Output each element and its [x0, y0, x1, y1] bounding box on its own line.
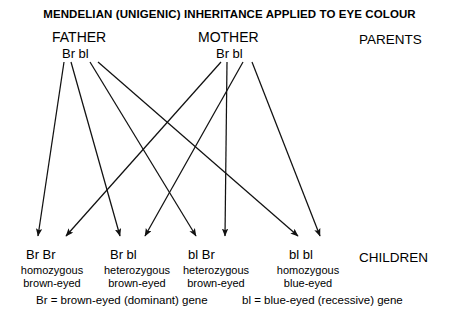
- arrow-father-br-to-child2: [71, 62, 120, 236]
- parents-side-label: PARENTS: [359, 32, 422, 47]
- child-genotype-1: Br Br: [26, 247, 56, 262]
- child-description-3: heterozygous brown-eyed: [170, 264, 262, 289]
- mother-label: MOTHER: [198, 29, 259, 45]
- child-description-1: homozygous brown-eyed: [6, 264, 98, 289]
- arrow-father-bl-to-child3: [90, 62, 196, 236]
- child-description-1-line1: homozygous: [6, 264, 98, 277]
- arrow-mother-bl-to-child2: [145, 62, 243, 236]
- father-genes: Br bl: [62, 46, 89, 61]
- mother-genes: Br bl: [216, 46, 243, 61]
- child-description-3-line1: heterozygous: [170, 264, 262, 277]
- inheritance-diagram: MENDELIAN (UNIGENIC) INHERITANCE APPLIED…: [0, 0, 459, 317]
- child-description-1-line2: brown-eyed: [6, 277, 98, 290]
- page-title: MENDELIAN (UNIGENIC) INHERITANCE APPLIED…: [0, 8, 459, 20]
- child-description-4: homozygous blue-eyed: [262, 264, 354, 289]
- legend-brown-gene: Br = brown-eyed (dominant) gene: [36, 294, 208, 306]
- children-side-label: CHILDREN: [359, 250, 428, 265]
- child-description-4-line1: homozygous: [262, 264, 354, 277]
- father-label: FATHER: [52, 29, 106, 45]
- child-genotype-4: bl bl: [289, 247, 313, 262]
- child-description-3-line2: brown-eyed: [170, 277, 262, 290]
- arrow-mother-br-to-child3: [225, 62, 227, 236]
- child-genotype-3: bl Br: [188, 247, 215, 262]
- legend-blue-gene: bl = blue-eyed (recessive) gene: [242, 294, 403, 306]
- child-description-4-line2: blue-eyed: [262, 277, 354, 290]
- child-genotype-2: Br bl: [110, 247, 137, 262]
- arrow-father-bl-to-child4: [98, 62, 298, 236]
- arrow-father-br-to-child1: [38, 62, 64, 236]
- arrow-mother-bl-to-child4: [252, 62, 320, 236]
- arrow-mother-br-to-child1: [66, 62, 221, 236]
